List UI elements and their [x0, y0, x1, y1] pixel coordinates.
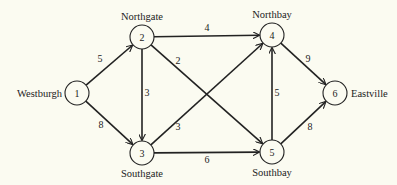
node-label: Southbay: [252, 167, 292, 178]
edge-1-to-3: [86, 101, 133, 144]
node-number: 6: [333, 88, 338, 99]
edge-weight-2-5: 2: [176, 55, 181, 66]
node-label: Southgate: [121, 168, 163, 179]
edge-weight-4-6: 9: [306, 53, 311, 64]
node-westburgh: 1Westburgh: [17, 81, 89, 105]
node-label: Northbay: [252, 9, 292, 20]
edge-1-to-2: [86, 45, 132, 85]
edge-weight-3-4: 3: [176, 121, 181, 132]
edges-group: [86, 35, 326, 153]
node-number: 3: [140, 148, 145, 159]
edge-weight-3-5: 6: [205, 154, 210, 165]
edge-4-to-6: [281, 43, 326, 84]
node-label: Westburgh: [17, 88, 63, 99]
node-eastville: 6Eastville: [323, 81, 388, 105]
edge-5-to-6: [281, 102, 326, 144]
edge-weight-1-2: 5: [98, 53, 103, 64]
node-number: 1: [75, 88, 80, 99]
edge-weight-5-4: 5: [275, 87, 280, 98]
node-number: 2: [140, 32, 145, 43]
node-southbay: 5Southbay: [252, 140, 292, 178]
node-number: 5: [270, 147, 275, 158]
edge-3-to-5: [154, 152, 259, 153]
node-northgate: 2Northgate: [121, 11, 163, 49]
edge-weight-2-4: 4: [205, 22, 210, 33]
edge-weight-5-6: 8: [308, 121, 313, 132]
edge-weight-1-3: 8: [99, 119, 104, 130]
edge-2-to-4: [154, 35, 259, 37]
nodes-group: 1Westburgh2Northgate3Southgate4Northbay5…: [17, 9, 388, 179]
node-label: Northgate: [121, 11, 163, 22]
node-label: Eastville: [351, 88, 388, 99]
network-diagram: 5834236958 1Westburgh2Northgate3Southgat…: [0, 0, 397, 185]
node-southgate: 3Southgate: [121, 141, 163, 179]
node-northbay: 4Northbay: [252, 9, 292, 47]
edge-weight-2-3: 3: [145, 87, 150, 98]
node-number: 4: [270, 30, 275, 41]
